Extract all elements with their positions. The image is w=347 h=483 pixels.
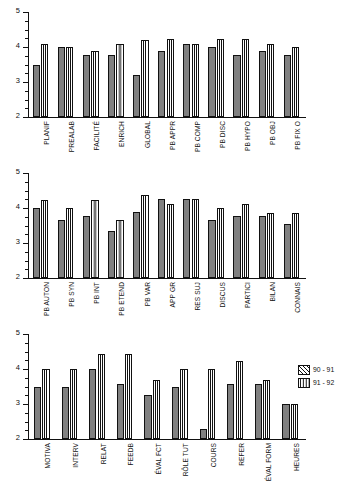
- bar: [292, 47, 299, 117]
- bar-group: [89, 334, 105, 439]
- y-tick-3: 3: [0, 243, 29, 244]
- bar: [98, 354, 105, 439]
- bar-group: [58, 12, 74, 117]
- bar-group: [33, 173, 49, 278]
- bar: [158, 51, 165, 117]
- x-axis-label: PB APPR: [169, 121, 176, 150]
- x-axis-label: GLOBAL: [144, 121, 151, 148]
- bar: [42, 369, 49, 439]
- bar: [233, 216, 240, 278]
- bar: [89, 369, 96, 439]
- x-axis-label: RÔLE TUT: [182, 443, 189, 476]
- bar-group: [133, 173, 149, 278]
- y-tick-label: 2: [6, 111, 20, 121]
- bar-group: [108, 12, 124, 117]
- bar-group: [282, 334, 298, 439]
- y-tick-label: 2: [6, 433, 20, 443]
- bar-group: [259, 12, 275, 117]
- bar: [263, 380, 270, 439]
- bar: [192, 44, 199, 118]
- bar: [259, 51, 266, 117]
- y-tick-3: 3: [0, 404, 29, 405]
- plot-area: [29, 12, 305, 117]
- bar: [141, 195, 148, 278]
- legend-label-9192: 91 - 92: [313, 379, 334, 386]
- bar-group: [208, 12, 224, 117]
- x-axis-label: APP GR: [169, 282, 176, 307]
- bar-group: [144, 334, 160, 439]
- y-tick-4: 4: [0, 369, 29, 370]
- bar: [284, 224, 291, 278]
- x-axis-label: PB AUTON: [43, 282, 50, 316]
- bar-group: [83, 12, 99, 117]
- x-axis-label: ÉVAL FCT: [155, 443, 162, 475]
- x-axis-label: PREALAB: [68, 121, 75, 152]
- x-axis-label: DISCUS: [219, 282, 226, 308]
- y-tick-mark: [23, 278, 29, 279]
- bar: [255, 384, 262, 439]
- bar-group: [133, 12, 149, 117]
- bar-chart-figure: 2345 PLANIFPREALABFACILITÉENRICHGLOBALPB…: [0, 0, 347, 483]
- bar-group: [284, 173, 300, 278]
- bar-group: [117, 334, 133, 439]
- y-tick-label: 4: [6, 41, 20, 51]
- x-axis-label: PB VAR: [144, 282, 151, 306]
- x-axis-label: ENRICH: [118, 121, 125, 147]
- bar: [227, 384, 234, 439]
- bar: [144, 395, 151, 439]
- bar: [208, 220, 215, 278]
- bar: [70, 369, 77, 439]
- x-axis-label: REFER: [238, 443, 245, 466]
- bar: [153, 380, 160, 439]
- bar: [192, 199, 199, 278]
- bar: [83, 55, 90, 117]
- bar-group: [172, 334, 188, 439]
- bar: [91, 200, 98, 278]
- bar: [284, 55, 291, 117]
- bar: [133, 212, 140, 278]
- y-tick-mark: [23, 117, 29, 118]
- bar: [208, 47, 215, 117]
- bar: [83, 216, 90, 278]
- x-axis-label: PB DISC: [219, 121, 226, 148]
- chart-panel-1: 2345 PLANIFPREALABFACILITÉENRICHGLOBALPB…: [0, 0, 347, 161]
- x-axis-line: [28, 278, 306, 279]
- y-tick-4: 4: [0, 208, 29, 209]
- bar-group: [183, 173, 199, 278]
- y-tick-label: 4: [6, 202, 20, 212]
- x-axis-label: INTERV: [72, 443, 79, 468]
- x-axis-label: PB ETEND: [118, 282, 125, 316]
- bar: [236, 361, 243, 439]
- bar: [41, 200, 48, 278]
- x-axis-label: RES SUJ: [194, 282, 201, 311]
- bar-group: [233, 173, 249, 278]
- legend-entry-9091: 90 - 91: [298, 364, 346, 375]
- x-axis-label: PB OBJ: [269, 121, 276, 145]
- x-axis-label: RELAT: [100, 443, 107, 464]
- legend-swatch-9091-icon: [298, 365, 310, 375]
- x-axis-label: PLANIF: [43, 121, 50, 145]
- bar: [217, 39, 224, 117]
- x-axis-label: COURS: [210, 443, 217, 467]
- bar: [91, 51, 98, 117]
- x-axis-label: FEEDB: [127, 443, 134, 465]
- y-tick-label: 2: [6, 272, 20, 282]
- bar: [66, 47, 73, 117]
- y-tick-mark: [23, 439, 29, 440]
- bar: [116, 44, 123, 118]
- bar: [267, 44, 274, 118]
- chart-panel-3: 2345 MOTIVAINTERVRELATFEEDBÉVAL FCTRÔLE …: [0, 322, 347, 483]
- bar: [217, 208, 224, 278]
- bar-group: [183, 12, 199, 117]
- y-tick-label: 3: [6, 398, 20, 408]
- plot-area: [29, 173, 305, 278]
- bar-group: [158, 12, 174, 117]
- bar: [242, 39, 249, 117]
- bar: [33, 208, 40, 278]
- y-tick-label: 5: [6, 328, 20, 338]
- legend-entry-9192: 91 - 92: [298, 377, 346, 388]
- x-axis-label: PB INT: [93, 282, 100, 304]
- x-axis-label: PB SYN: [68, 282, 75, 307]
- bar: [167, 204, 174, 278]
- bar: [158, 199, 165, 278]
